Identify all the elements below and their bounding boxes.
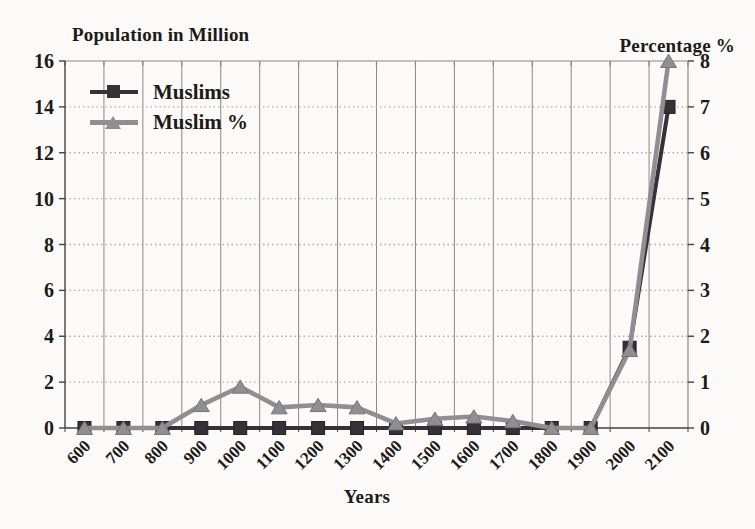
svg-text:700: 700 [102,436,133,467]
svg-text:3: 3 [700,279,710,301]
svg-text:2: 2 [700,325,710,347]
svg-text:600: 600 [63,436,94,467]
svg-text:0: 0 [700,417,710,439]
svg-text:800: 800 [141,436,172,467]
svg-text:14: 14 [34,96,54,118]
legend-label-muslim-pct: Muslim % [153,110,248,135]
legend-marker-square-icon [90,84,146,100]
svg-text:1800: 1800 [524,436,561,473]
svg-text:6: 6 [44,279,54,301]
svg-text:1100: 1100 [252,436,289,473]
legend-label-muslims: Muslims [153,80,230,105]
svg-text:16: 16 [34,50,54,72]
legend-item-muslim-pct: Muslim % [90,107,248,137]
svg-text:10: 10 [34,188,54,210]
svg-text:8: 8 [700,50,710,72]
svg-text:1000: 1000 [213,436,250,473]
legend-marker-triangle-icon [90,114,146,130]
svg-text:2000: 2000 [602,436,639,473]
svg-text:12: 12 [34,142,54,164]
svg-text:4: 4 [44,325,54,347]
svg-text:2100: 2100 [641,436,678,473]
svg-text:8: 8 [44,234,54,256]
scanned-chart-page: Population in Million Percentage % 02468… [0,0,755,529]
svg-text:4: 4 [700,234,710,256]
svg-text:1300: 1300 [329,436,366,473]
x-axis-title: Years [344,486,390,508]
chart-legend: Muslims Muslim % [90,77,248,137]
svg-text:1500: 1500 [407,436,444,473]
svg-text:900: 900 [180,436,211,467]
legend-item-muslims: Muslims [90,77,248,107]
svg-text:1600: 1600 [446,436,483,473]
svg-text:0: 0 [44,417,54,439]
svg-text:1900: 1900 [563,436,600,473]
svg-text:6: 6 [700,142,710,164]
svg-text:1700: 1700 [485,436,522,473]
svg-text:1400: 1400 [368,436,405,473]
svg-text:2: 2 [44,371,54,393]
svg-text:5: 5 [700,188,710,210]
svg-text:7: 7 [700,96,710,118]
svg-text:1: 1 [700,371,710,393]
svg-text:1200: 1200 [290,436,327,473]
